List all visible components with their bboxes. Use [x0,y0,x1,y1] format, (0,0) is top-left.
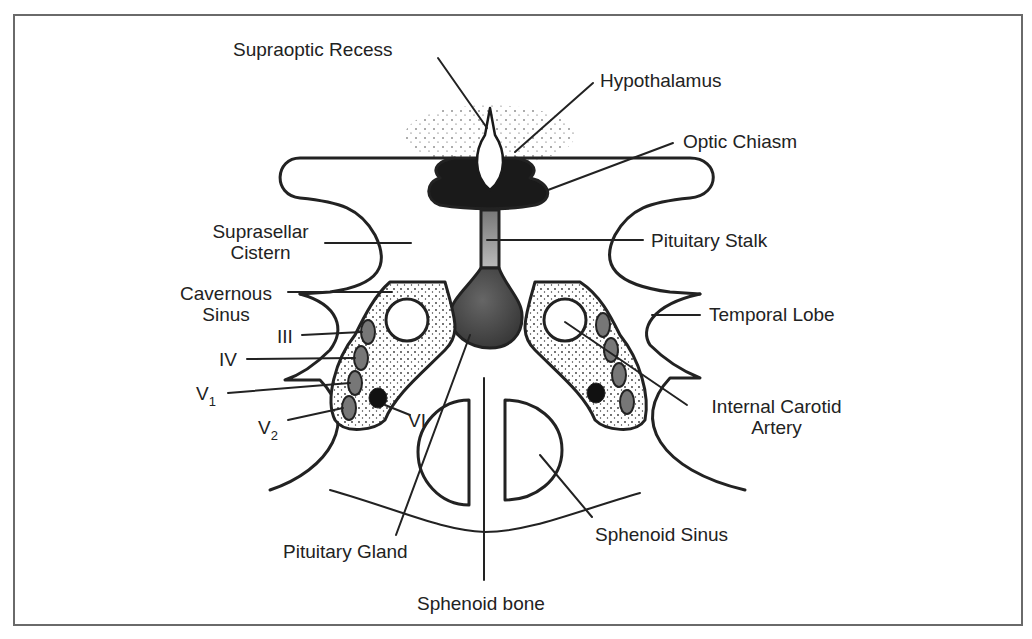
pituitary-anatomy-diagram: Supraoptic Recess Hypothalamus Optic Chi… [0,0,1032,639]
label-internal-carotid-line2: Artery [694,417,859,438]
right-brain-contour [515,158,713,294]
leader-cn-iv [247,358,355,359]
leader-optic-chiasm [548,143,673,190]
left-cn-v2 [342,396,356,420]
label-cn-v1-sub: 1 [209,394,216,409]
right-cn-v2 [620,390,634,414]
label-cn-v1: V1 [196,383,216,406]
label-hypothalamus: Hypothalamus [600,70,721,91]
right-sphenoid-sinus [505,400,562,500]
label-cn-iv: IV [219,349,237,370]
label-sphenoid-sinus: Sphenoid Sinus [595,524,728,545]
label-temporal-lobe: Temporal Lobe [709,304,835,325]
label-pituitary-stalk: Pituitary Stalk [651,230,767,251]
left-internal-carotid [386,299,428,341]
label-suprasellar-line1: Suprasellar [203,221,318,242]
label-cavernous-sinus: Cavernous Sinus [168,283,284,325]
label-sphenoid-bone: Sphenoid bone [417,593,545,614]
pituitary-gland [450,268,522,348]
label-cn-v2-sub: 2 [271,428,278,443]
label-cn-iii: III [277,326,293,347]
label-cavernous-line1: Cavernous [168,283,284,304]
label-cn-v2-main: V [258,417,271,438]
label-suprasellar-line2: Cistern [203,242,318,263]
left-cn-iii [361,320,375,344]
left-cn-iv [354,346,368,370]
label-cavernous-line2: Sinus [168,304,284,325]
right-cn-v1 [612,363,626,387]
right-cn-iii [596,313,610,337]
label-suprasellar-cistern: Suprasellar Cistern [203,221,318,263]
label-cn-v1-main: V [196,383,209,404]
label-cn-v2: V2 [258,417,278,440]
label-optic-chiasm: Optic Chiasm [683,131,797,152]
leader-sphenoid-sinus [540,455,592,517]
label-internal-carotid: Internal Carotid Artery [694,396,859,438]
leader-cn-iii [302,332,362,335]
diagram-drawing [0,0,1032,639]
right-cn-vi [587,383,605,403]
label-internal-carotid-line1: Internal Carotid [694,396,859,417]
right-internal-carotid [544,299,586,341]
label-cn-vi: VI [408,410,426,431]
label-pituitary-gland: Pituitary Gland [283,541,408,562]
label-supraoptic-recess: Supraoptic Recess [233,39,392,60]
